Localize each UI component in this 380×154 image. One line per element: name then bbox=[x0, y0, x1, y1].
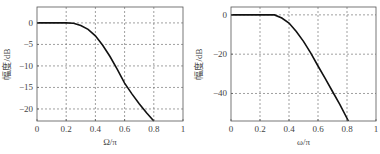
x-tick-label: 0.6 bbox=[312, 124, 324, 134]
x-tick-label: 0 bbox=[229, 124, 234, 134]
y-tick-label: −20 bbox=[213, 49, 228, 59]
x-tick-label: 1 bbox=[374, 124, 379, 134]
chart-right-canvas: 00.20.40.60.810−20−40ω/π幅度/dB bbox=[190, 0, 380, 154]
magnitude-response-chart-right: 00.20.40.60.810−20−40ω/π幅度/dB bbox=[190, 0, 380, 154]
magnitude-response-chart-left: 00.20.40.60.810−5−10−15−20Ω/π幅度/dB bbox=[0, 0, 190, 154]
magnitude-curve bbox=[231, 15, 348, 121]
x-tick-label: 0 bbox=[35, 124, 40, 134]
grid-lines bbox=[37, 7, 183, 121]
x-tick-label: 0.4 bbox=[90, 124, 102, 134]
y-tick-label: −5 bbox=[23, 39, 33, 49]
x-tick-label: 0.2 bbox=[61, 124, 72, 134]
y-tick-label: −20 bbox=[19, 104, 34, 114]
grid-lines bbox=[231, 7, 376, 121]
y-tick-label: −15 bbox=[19, 82, 34, 92]
x-tick-label: 0.8 bbox=[148, 124, 160, 134]
x-tick-label: 0.8 bbox=[341, 124, 353, 134]
y-tick-label: 0 bbox=[223, 10, 228, 20]
y-tick-label: −10 bbox=[19, 61, 34, 71]
plot-frame bbox=[231, 7, 376, 121]
x-tick-label: 0.6 bbox=[119, 124, 131, 134]
y-tick-label: 0 bbox=[29, 18, 34, 28]
y-tick-label: −40 bbox=[213, 88, 228, 98]
x-axis-label: Ω/π bbox=[103, 137, 117, 147]
y-axis-label: 幅度/dB bbox=[1, 48, 12, 79]
x-axis-label: ω/π bbox=[297, 137, 310, 147]
x-tick-label: 0.2 bbox=[254, 124, 265, 134]
chart-left-canvas: 00.20.40.60.810−5−10−15−20Ω/π幅度/dB bbox=[0, 0, 190, 154]
x-tick-label: 0.4 bbox=[283, 124, 295, 134]
plot-frame bbox=[37, 7, 183, 121]
y-axis-label: 幅度/dB bbox=[193, 48, 204, 79]
x-tick-label: 1 bbox=[181, 124, 186, 134]
